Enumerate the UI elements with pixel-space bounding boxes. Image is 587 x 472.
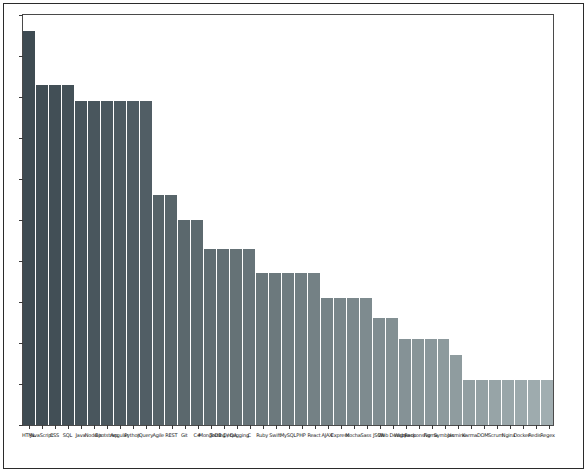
x-tick (445, 425, 446, 429)
x-tick (510, 425, 511, 429)
x-tick-label: CSS (50, 432, 59, 439)
y-tick (19, 220, 23, 221)
x-tick (458, 425, 459, 429)
x-tick-label: C (247, 432, 250, 439)
bar (502, 380, 515, 425)
x-tick (432, 425, 433, 429)
bar (49, 85, 62, 425)
x-tick (276, 425, 277, 429)
bar (438, 339, 451, 425)
bar (347, 298, 360, 425)
x-tick (185, 425, 186, 429)
x-tick (406, 425, 407, 429)
x-tick-label: Mocha (345, 432, 360, 439)
x-tick (68, 425, 69, 429)
bar (334, 298, 347, 425)
x-tick (549, 425, 550, 429)
bar (230, 249, 243, 425)
x-tick (172, 425, 173, 429)
bar (23, 31, 36, 425)
x-tick-label: Redis (528, 432, 541, 439)
x-tick (81, 425, 82, 429)
bar (373, 318, 386, 425)
bar (178, 220, 191, 425)
bar (256, 273, 269, 425)
x-tick-label: jQuery (138, 432, 153, 439)
x-tick (94, 425, 95, 429)
x-tick (380, 425, 381, 429)
bar (243, 249, 256, 425)
x-tick-label: Docker (513, 432, 529, 439)
bar-series (23, 15, 553, 425)
x-tick (146, 425, 147, 429)
x-tick (237, 425, 238, 429)
bar (282, 273, 295, 425)
chart-figure: HTMLJavaScriptCSSSQLJavaNode.jsBootstrap… (0, 0, 587, 472)
x-tick (328, 425, 329, 429)
y-tick (19, 343, 23, 344)
x-tick (120, 425, 121, 429)
bar (463, 380, 476, 425)
x-tick-label: Ruby (256, 432, 268, 439)
bar (360, 298, 373, 425)
bar (62, 85, 75, 425)
y-tick (19, 97, 23, 98)
x-tick (354, 425, 355, 429)
y-tick (19, 384, 23, 385)
bar (101, 101, 114, 425)
x-tick (250, 425, 251, 429)
y-tick (19, 261, 23, 262)
x-tick-label: SQL (63, 432, 72, 439)
bar (515, 380, 528, 425)
y-tick (19, 138, 23, 139)
x-tick-label: Regex (540, 432, 554, 439)
y-tick (19, 179, 23, 180)
x-tick (133, 425, 134, 429)
x-tick-label: Sass (361, 432, 372, 439)
x-tick (55, 425, 56, 429)
y-tick (19, 15, 23, 16)
bar (412, 339, 425, 425)
x-tick (471, 425, 472, 429)
bar (191, 220, 204, 425)
y-tick (19, 56, 23, 57)
bar (476, 380, 489, 425)
bar (204, 249, 217, 425)
x-tick-label: Scrum (488, 432, 503, 439)
bar (399, 339, 412, 425)
x-tick (315, 425, 316, 429)
y-tick (19, 302, 23, 303)
bar (308, 273, 321, 425)
bar (450, 355, 463, 425)
x-tick-label: Agile (153, 432, 164, 439)
bar (528, 380, 541, 425)
x-tick (523, 425, 524, 429)
x-tick-label: Karma (462, 432, 477, 439)
x-axis-tick-labels: HTMLJavaScriptCSSSQLJavaNode.jsBootstrap… (22, 432, 554, 446)
bar (114, 101, 127, 425)
x-tick (484, 425, 485, 429)
bar (489, 380, 502, 425)
y-axis-ticks (19, 15, 23, 425)
bar (165, 195, 178, 425)
x-tick-label: Git (181, 432, 188, 439)
x-tick-label: REST (165, 432, 177, 439)
x-tick (393, 425, 394, 429)
x-tick (211, 425, 212, 429)
x-tick (263, 425, 264, 429)
x-tick (341, 425, 342, 429)
x-tick (29, 425, 30, 429)
plot-area (23, 15, 553, 425)
x-tick (536, 425, 537, 429)
bar (75, 101, 88, 425)
x-tick-label: React (307, 432, 320, 439)
x-tick (107, 425, 108, 429)
bar (425, 339, 438, 425)
bar (217, 249, 230, 425)
x-tick-label: Debugging (223, 432, 249, 439)
bar (295, 273, 308, 425)
bar (269, 273, 282, 425)
x-tick-label: MySQL (280, 432, 296, 439)
x-tick (419, 425, 420, 429)
x-tick (497, 425, 498, 429)
